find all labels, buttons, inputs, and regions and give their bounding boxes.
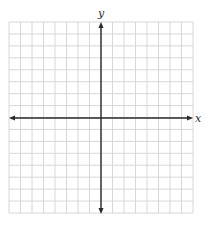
- x-axis-left-arrow-icon: [9, 116, 15, 121]
- coordinate-plane: x y: [0, 0, 206, 229]
- y-axis-top-arrow-icon: [99, 22, 104, 28]
- axes: [9, 22, 193, 214]
- x-axis-right-arrow-icon: [187, 116, 193, 121]
- y-axis-label: y: [97, 7, 105, 20]
- x-axis-label: x: [195, 112, 202, 125]
